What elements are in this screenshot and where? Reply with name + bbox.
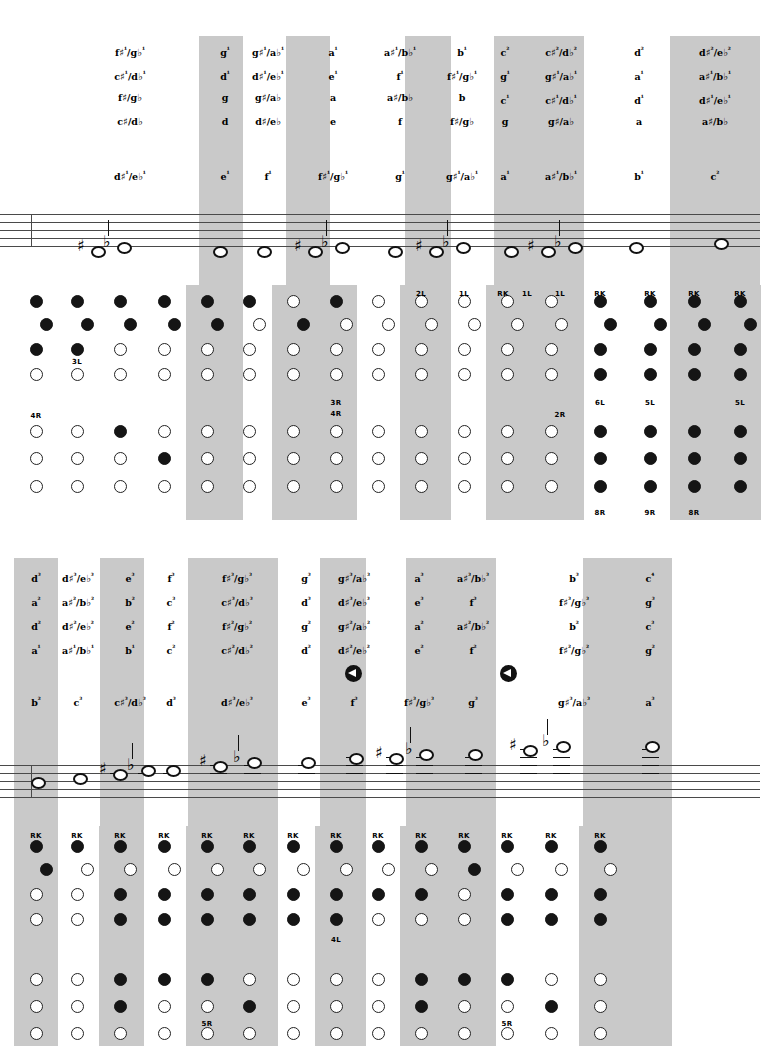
fingering-hole[interactable] — [501, 1027, 514, 1040]
fingering-hole[interactable] — [594, 425, 607, 438]
fingering-hole[interactable] — [114, 368, 127, 381]
fingering-hole[interactable] — [330, 1027, 343, 1040]
fingering-hole[interactable] — [330, 1000, 343, 1013]
fingering-hole[interactable] — [511, 318, 524, 331]
fingering-hole[interactable] — [243, 368, 256, 381]
fingering-hole[interactable] — [501, 840, 514, 853]
fingering-hole[interactable] — [330, 343, 343, 356]
fingering-hole[interactable] — [287, 1027, 300, 1040]
fingering-hole[interactable] — [243, 295, 256, 308]
fingering-hole[interactable] — [604, 863, 617, 876]
fingering-hole[interactable] — [71, 1000, 84, 1013]
fingering-hole[interactable] — [415, 368, 428, 381]
fingering-hole[interactable] — [71, 452, 84, 465]
fingering-hole[interactable] — [30, 452, 43, 465]
fingering-hole[interactable] — [382, 318, 395, 331]
fingering-hole[interactable] — [201, 343, 214, 356]
fingering-hole[interactable] — [287, 295, 300, 308]
fingering-hole[interactable] — [511, 863, 524, 876]
fingering-hole[interactable] — [644, 480, 657, 493]
fingering-hole[interactable] — [71, 913, 84, 926]
fingering-hole[interactable] — [158, 480, 171, 493]
fingering-hole[interactable] — [287, 480, 300, 493]
fingering-hole[interactable] — [287, 973, 300, 986]
fingering-hole[interactable] — [594, 840, 607, 853]
fingering-hole[interactable] — [330, 840, 343, 853]
fingering-hole[interactable] — [201, 888, 214, 901]
fingering-hole[interactable] — [158, 295, 171, 308]
fingering-hole[interactable] — [71, 295, 84, 308]
fingering-hole[interactable] — [30, 480, 43, 493]
fingering-hole[interactable] — [415, 343, 428, 356]
fingering-hole[interactable] — [734, 425, 747, 438]
fingering-hole[interactable] — [114, 888, 127, 901]
fingering-hole[interactable] — [594, 452, 607, 465]
fingering-hole[interactable] — [415, 1027, 428, 1040]
fingering-hole[interactable] — [458, 452, 471, 465]
fingering-hole[interactable] — [372, 343, 385, 356]
fingering-hole[interactable] — [243, 343, 256, 356]
fingering-hole[interactable] — [243, 425, 256, 438]
fingering-hole[interactable] — [114, 840, 127, 853]
fingering-hole[interactable] — [545, 368, 558, 381]
fingering-hole[interactable] — [415, 973, 428, 986]
fingering-hole[interactable] — [644, 452, 657, 465]
fingering-hole[interactable] — [458, 840, 471, 853]
fingering-hole[interactable] — [243, 1027, 256, 1040]
fingering-hole[interactable] — [40, 318, 53, 331]
fingering-hole[interactable] — [415, 480, 428, 493]
fingering-hole[interactable] — [468, 863, 481, 876]
fingering-hole[interactable] — [71, 368, 84, 381]
fingering-hole[interactable] — [594, 368, 607, 381]
fingering-hole[interactable] — [594, 480, 607, 493]
fingering-hole[interactable] — [688, 368, 701, 381]
fingering-hole[interactable] — [201, 1000, 214, 1013]
fingering-hole[interactable] — [211, 863, 224, 876]
fingering-hole[interactable] — [501, 1000, 514, 1013]
fingering-hole[interactable] — [688, 425, 701, 438]
fingering-hole[interactable] — [287, 425, 300, 438]
fingering-hole[interactable] — [330, 368, 343, 381]
fingering-hole[interactable] — [501, 343, 514, 356]
fingering-hole[interactable] — [501, 973, 514, 986]
fingering-hole[interactable] — [158, 368, 171, 381]
fingering-hole[interactable] — [372, 1000, 385, 1013]
fingering-hole[interactable] — [458, 1000, 471, 1013]
fingering-hole[interactable] — [604, 318, 617, 331]
fingering-hole[interactable] — [734, 343, 747, 356]
fingering-hole[interactable] — [30, 840, 43, 853]
fingering-hole[interactable] — [30, 368, 43, 381]
fingering-hole[interactable] — [158, 840, 171, 853]
fingering-hole[interactable] — [201, 452, 214, 465]
fingering-hole[interactable] — [458, 1027, 471, 1040]
fingering-hole[interactable] — [501, 425, 514, 438]
fingering-hole[interactable] — [243, 913, 256, 926]
fingering-hole[interactable] — [168, 318, 181, 331]
fingering-hole[interactable] — [594, 1027, 607, 1040]
fingering-hole[interactable] — [415, 913, 428, 926]
fingering-hole[interactable] — [501, 368, 514, 381]
fingering-hole[interactable] — [545, 1000, 558, 1013]
fingering-hole[interactable] — [243, 840, 256, 853]
fingering-hole[interactable] — [71, 840, 84, 853]
fingering-hole[interactable] — [688, 480, 701, 493]
fingering-hole[interactable] — [114, 1027, 127, 1040]
fingering-hole[interactable] — [644, 368, 657, 381]
fingering-hole[interactable] — [30, 425, 43, 438]
fingering-hole[interactable] — [330, 913, 343, 926]
fingering-hole[interactable] — [201, 295, 214, 308]
fingering-hole[interactable] — [297, 863, 310, 876]
fingering-hole[interactable] — [501, 888, 514, 901]
fingering-hole[interactable] — [243, 1000, 256, 1013]
fingering-hole[interactable] — [114, 480, 127, 493]
fingering-hole[interactable] — [545, 888, 558, 901]
fingering-hole[interactable] — [458, 888, 471, 901]
fingering-hole[interactable] — [458, 425, 471, 438]
fingering-hole[interactable] — [81, 318, 94, 331]
fingering-hole[interactable] — [71, 888, 84, 901]
fingering-hole[interactable] — [501, 913, 514, 926]
fingering-hole[interactable] — [330, 452, 343, 465]
fingering-hole[interactable] — [158, 452, 171, 465]
fingering-hole[interactable] — [372, 480, 385, 493]
fingering-hole[interactable] — [458, 343, 471, 356]
